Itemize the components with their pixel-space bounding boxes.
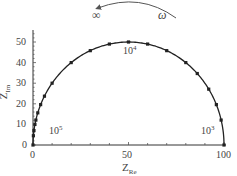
data-point xyxy=(108,42,111,45)
y-tick-0: 0 xyxy=(22,140,27,150)
omega-label: ω xyxy=(158,9,166,21)
x-tick-0: 0 xyxy=(30,150,35,160)
data-point xyxy=(220,118,223,121)
data-point xyxy=(32,134,35,137)
ann-exp: 4 xyxy=(133,44,137,52)
y-axis-title-main: Z xyxy=(0,93,9,100)
data-point xyxy=(215,103,218,106)
x-axis-title-sub: Re xyxy=(129,168,137,176)
annotation-1e3: 103 xyxy=(201,125,215,136)
ann-base: 10 xyxy=(201,125,211,136)
data-point xyxy=(222,143,225,146)
ann-base: 10 xyxy=(49,125,59,136)
nyquist-plot xyxy=(0,0,237,176)
data-point xyxy=(196,72,199,75)
x-axis-title-main: Z xyxy=(122,161,129,173)
data-point xyxy=(207,88,210,91)
x-tick-100: 100 xyxy=(216,150,231,160)
annotation-1e4: 104 xyxy=(123,45,137,56)
y-axis-title: ZIm xyxy=(0,85,12,100)
y-tick-30: 30 xyxy=(16,78,26,88)
data-point xyxy=(51,82,54,85)
ann-exp: 5 xyxy=(59,124,63,132)
data-point xyxy=(127,40,130,43)
data-point xyxy=(43,95,46,98)
data-point xyxy=(89,49,92,52)
y-tick-20: 20 xyxy=(16,99,26,109)
infinity-label: ∞ xyxy=(92,9,101,21)
data-point xyxy=(39,103,42,106)
data-point xyxy=(32,129,35,132)
data-point xyxy=(33,123,36,126)
data-point xyxy=(31,143,34,146)
ann-base: 10 xyxy=(123,45,133,56)
x-tick-50: 50 xyxy=(122,150,132,160)
data-point xyxy=(34,118,37,121)
data-point xyxy=(184,61,187,64)
data-point xyxy=(36,111,39,114)
y-tick-40: 40 xyxy=(16,58,26,68)
y-tick-50: 50 xyxy=(16,37,26,47)
data-point xyxy=(165,49,168,52)
data-point xyxy=(146,42,149,45)
ann-exp: 3 xyxy=(211,124,215,132)
x-axis-title: ZRe xyxy=(122,162,137,176)
data-point xyxy=(70,61,73,64)
annotation-1e5: 105 xyxy=(49,125,63,136)
y-axis-title-sub: Im xyxy=(4,85,12,93)
y-tick-10: 10 xyxy=(16,119,26,129)
